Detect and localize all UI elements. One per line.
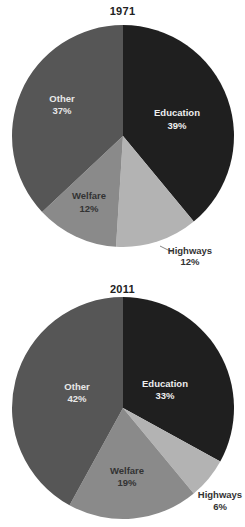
label-education-pct-1971: 39%: [167, 120, 187, 131]
label-highways-pct-1971: 12%: [180, 256, 200, 267]
label-highways-name-1971: Highways: [168, 245, 212, 256]
label-welfare-name-2011: Welfare: [110, 465, 144, 476]
label-welfare-pct-1971: 12%: [79, 203, 99, 214]
pie-chart-2011: Other 42% Education 33% Welfare 19% High…: [0, 273, 245, 527]
label-other-pct-1971: 37%: [52, 105, 72, 116]
label-education-name-2011: Education: [142, 378, 188, 389]
label-education-pct-2011: 33%: [155, 390, 175, 401]
label-welfare-pct-2011: 19%: [117, 477, 137, 488]
label-other-name-1971: Other: [49, 93, 75, 104]
label-welfare-name-1971: Welfare: [72, 190, 106, 201]
pie-chart-1971: Other 37% Education 39% Welfare 12% High…: [0, 0, 245, 270]
label-other-pct-2011: 42%: [67, 393, 87, 404]
pie-slices-1971: [12, 25, 234, 247]
label-education-name-1971: Education: [154, 107, 200, 118]
label-other-name-2011: Other: [64, 381, 90, 392]
label-highways-pct-2011: 6%: [213, 501, 227, 512]
label-highways-name-2011: Highways: [198, 489, 242, 500]
